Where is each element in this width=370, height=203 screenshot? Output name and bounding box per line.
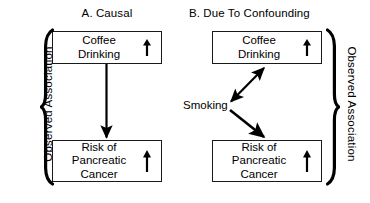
node-box-pancreatic-cancer-a: Risk of Pancreatic Cancer <box>52 140 162 182</box>
causal-confounding-figure: A. Causal B. Due To Confounding Coffee D… <box>0 0 370 203</box>
up-arrow-icon <box>299 38 315 57</box>
up-arrow-icon <box>139 38 155 57</box>
node-box-coffee-drinking-b: Coffee Drinking <box>212 31 322 64</box>
arrow-smoking-coffee-bidirectional-b <box>231 68 264 102</box>
arrow-smoking-to-cancer-b <box>230 110 264 137</box>
node-content: Risk of Pancreatic Cancer <box>213 141 321 182</box>
confounder-label-smoking: Smoking <box>183 99 228 111</box>
up-arrow-icon <box>299 149 315 173</box>
node-content: Coffee Drinking <box>53 34 161 61</box>
node-label-pancreatic-cancer-b: Risk of Pancreatic Cancer <box>219 141 299 182</box>
node-box-coffee-drinking-a: Coffee Drinking <box>52 31 162 64</box>
caption-observed-association-right: Observed Association <box>346 24 358 184</box>
panel-a-title: A. Causal <box>0 7 214 19</box>
up-arrow-icon <box>139 149 155 173</box>
brace-right-icon <box>326 28 340 186</box>
node-label-coffee-drinking-a: Coffee Drinking <box>59 34 139 61</box>
caption-observed-association-left: Observed Association <box>42 24 54 184</box>
node-label-pancreatic-cancer-a: Risk of Pancreatic Cancer <box>59 141 139 182</box>
node-label-coffee-drinking-b: Coffee Drinking <box>219 34 299 61</box>
node-box-pancreatic-cancer-b: Risk of Pancreatic Cancer <box>212 140 322 182</box>
panel-b-title: B. Due To Confounding <box>189 7 325 19</box>
node-content: Risk of Pancreatic Cancer <box>53 141 161 182</box>
node-content: Coffee Drinking <box>213 34 321 61</box>
